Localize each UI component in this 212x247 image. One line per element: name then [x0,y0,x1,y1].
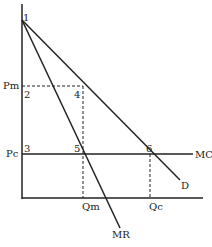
demand-curve [22,20,180,180]
label-4: 4 [74,89,80,100]
label-d: D [181,180,189,191]
marginal-revenue-curve [22,20,120,228]
label-mr: MR [112,229,130,240]
label-6: 6 [146,143,152,154]
label-pm: Pm [3,80,20,91]
label-5: 5 [74,143,80,154]
label-pc: Pc [6,148,19,159]
label-3: 3 [24,143,30,154]
label-1: 1 [23,12,29,23]
label-qc: Qc [149,201,163,212]
label-qm: Qm [82,201,100,212]
label-mc: MC [195,149,212,160]
label-2: 2 [24,89,30,100]
monopoly-diagram: 1 Pm 2 4 Pc 3 5 6 MC D Qm Qc MR [0,0,212,247]
